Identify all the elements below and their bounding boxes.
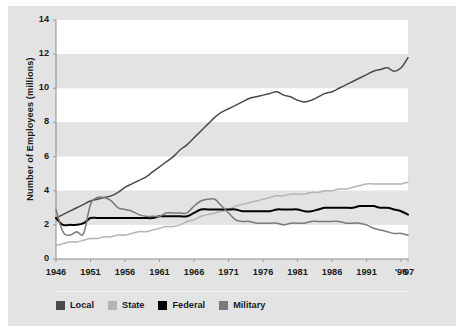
legend-label-federal: Federal (172, 300, 205, 310)
chart-legend: LocalStateFederalMilitary (56, 298, 265, 312)
y-tick-6: 6 (25, 151, 49, 161)
legend-swatch-state-icon (108, 301, 117, 310)
y-tick-2: 2 (25, 219, 49, 229)
legend-label-state: State (122, 300, 144, 310)
y-tick-10: 10 (25, 82, 49, 92)
y-tick-14: 14 (25, 14, 49, 24)
y-tick-8: 8 (25, 116, 49, 126)
legend-item-military[interactable]: Military (219, 300, 265, 310)
legend-swatch-local-icon (56, 301, 65, 310)
legend-item-federal[interactable]: Federal (158, 300, 205, 310)
chart-plot-region: Number of Employees (millions) 024681012… (8, 6, 456, 326)
legend-label-local: Local (70, 300, 94, 310)
legend-label-military: Military (233, 300, 265, 310)
legend-swatch-military-icon (219, 301, 228, 310)
legend-item-state[interactable]: State (108, 300, 144, 310)
x-tick-97: '97 (388, 267, 428, 277)
legend-item-local[interactable]: Local (56, 300, 94, 310)
y-tick-0: 0 (25, 253, 49, 263)
legend-swatch-federal-icon (158, 301, 167, 310)
y-tick-12: 12 (25, 48, 49, 58)
chart-lines-svg (8, 6, 456, 326)
y-tick-4: 4 (25, 185, 49, 195)
legend-divider (56, 291, 408, 292)
chart-figure: Number of Employees (millions) 024681012… (8, 6, 456, 326)
